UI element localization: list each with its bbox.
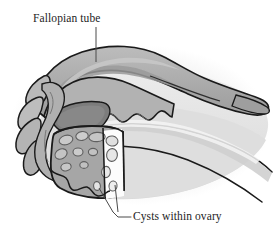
ovary-region bbox=[51, 126, 128, 202]
label-fallopian-tube: Fallopian tube bbox=[33, 12, 101, 25]
label-cysts-within-ovary: Cysts within ovary bbox=[133, 210, 222, 223]
illustration-figure: Fallopian tube Cysts within ovary bbox=[0, 0, 277, 236]
anatomy-illustration-canvas: Fallopian tube Cysts within ovary bbox=[0, 0, 277, 236]
leader-line-cyst-elbow bbox=[113, 212, 131, 217]
